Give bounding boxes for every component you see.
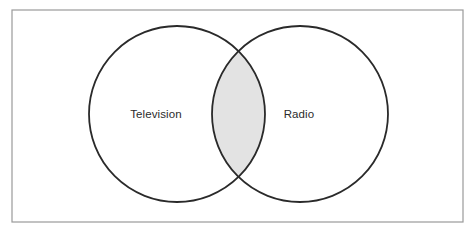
label-television: Television: [130, 108, 182, 120]
venn-diagram-figure: Television Radio: [0, 0, 475, 229]
label-radio: Radio: [284, 108, 315, 120]
venn-diagram-canvas: Television Radio: [0, 0, 475, 229]
